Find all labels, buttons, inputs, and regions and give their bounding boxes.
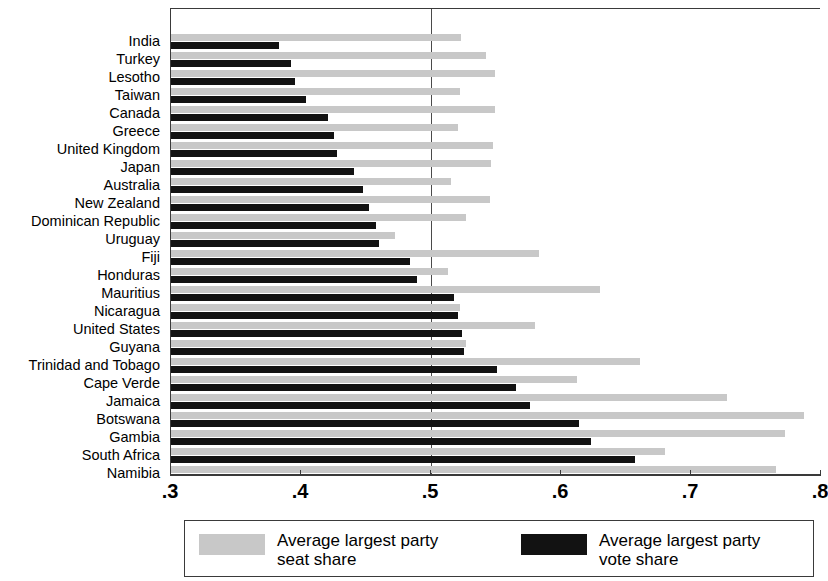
bar-group <box>171 177 820 195</box>
legend-swatch-seat <box>199 534 265 555</box>
bar-vote-share <box>171 258 410 265</box>
y-axis-tick-label: United States <box>73 320 160 338</box>
bar-vote-share <box>171 312 458 319</box>
bar-seat-share <box>171 340 466 347</box>
bar-vote-share <box>171 456 635 463</box>
bar-group <box>171 447 820 465</box>
bar-group <box>171 141 820 159</box>
x-axis-tick <box>820 470 821 476</box>
bar-group <box>171 303 820 321</box>
bar-seat-share <box>171 250 539 257</box>
x-axis-tick-label: .3 <box>162 480 179 503</box>
y-axis-tick-label: Turkey <box>116 50 160 68</box>
x-axis-tick <box>430 470 431 476</box>
bar-vote-share <box>171 384 516 391</box>
bar-group <box>171 159 820 177</box>
bar-seat-share <box>171 196 490 203</box>
y-axis-tick-label: New Zealand <box>75 194 160 212</box>
y-axis-tick-label: South Africa <box>82 446 160 464</box>
x-axis-tick <box>300 470 301 476</box>
bar-group <box>171 321 820 339</box>
bar-group <box>171 51 820 69</box>
bar-group <box>171 123 820 141</box>
y-axis-labels: IndiaTurkeyLesothoTaiwanCanadaGreeceUnit… <box>0 8 166 475</box>
bar-seat-share <box>171 214 466 221</box>
bar-seat-share <box>171 160 491 167</box>
bar-seat-share <box>171 178 451 185</box>
bar-vote-share <box>171 150 337 157</box>
bar-seat-share <box>171 268 448 275</box>
y-axis-tick-label: Guyana <box>109 338 160 356</box>
x-axis-tick <box>690 470 691 476</box>
bar-vote-share <box>171 114 328 121</box>
bar-group <box>171 465 820 475</box>
y-axis-tick-label: Dominican Republic <box>31 212 160 230</box>
bar-group <box>171 195 820 213</box>
y-axis-tick-label: Honduras <box>97 266 160 284</box>
bar-seat-share <box>171 322 535 329</box>
bar-group <box>171 429 820 447</box>
x-axis-tick <box>560 470 561 476</box>
bar-vote-share <box>171 240 379 247</box>
x-axis-tick-label: .4 <box>292 480 309 503</box>
bar-seat-share <box>171 376 577 383</box>
bar-seat-share <box>171 106 495 113</box>
bar-vote-share <box>171 186 363 193</box>
bar-seat-share <box>171 448 665 455</box>
bar-group <box>171 285 820 303</box>
x-axis-tick-label: .6 <box>552 480 569 503</box>
bar-seat-share <box>171 430 785 437</box>
bar-group <box>171 393 820 411</box>
bar-vote-share <box>171 132 334 139</box>
bar-group <box>171 249 820 267</box>
x-axis-tick <box>170 470 171 476</box>
bar-seat-share <box>171 52 486 59</box>
bar-vote-share <box>171 438 591 445</box>
legend-entry: Average largest party vote share <box>521 531 760 569</box>
bar-group <box>171 69 820 87</box>
y-axis-tick-label: Uruguay <box>105 230 160 248</box>
bar-vote-share <box>171 366 497 373</box>
y-axis-tick-label: Canada <box>109 104 160 122</box>
bar-seat-share <box>171 88 460 95</box>
bar-seat-share <box>171 232 395 239</box>
chart-figure: IndiaTurkeyLesothoTaiwanCanadaGreeceUnit… <box>0 0 828 581</box>
bar-vote-share <box>171 402 530 409</box>
bar-group <box>171 339 820 357</box>
bar-group <box>171 33 820 51</box>
bar-vote-share <box>171 222 376 229</box>
y-axis-tick-label: United Kingdom <box>57 140 160 158</box>
bar-seat-share <box>171 394 727 401</box>
x-axis-line <box>170 475 820 476</box>
plot-area <box>170 8 820 475</box>
bar-seat-share <box>171 358 640 365</box>
bar-group <box>171 231 820 249</box>
y-axis-tick-label: Japan <box>120 158 160 176</box>
bar-vote-share <box>171 96 306 103</box>
bar-seat-share <box>171 124 458 131</box>
bar-vote-share <box>171 78 295 85</box>
y-axis-tick-label: Greece <box>112 122 160 140</box>
bar-vote-share <box>171 168 354 175</box>
bar-vote-share <box>171 420 579 427</box>
x-axis: .3.4.5.6.7.8 <box>170 475 820 515</box>
bar-vote-share <box>171 204 369 211</box>
y-axis-tick-label: Taiwan <box>115 86 160 104</box>
x-axis-tick-label: .8 <box>812 480 828 503</box>
x-axis-tick-label: .7 <box>682 480 699 503</box>
y-axis-tick-label: Lesotho <box>108 68 160 86</box>
legend-label: Average largest party vote share <box>599 531 760 569</box>
bar-group <box>171 213 820 231</box>
y-axis-tick-label: Nicaragua <box>94 302 160 320</box>
y-axis-tick-label: Mauritius <box>101 284 160 302</box>
y-axis-tick-label: India <box>129 32 160 50</box>
bar-vote-share <box>171 348 464 355</box>
y-axis-tick-label: Fiji <box>141 248 160 266</box>
bar-vote-share <box>171 276 417 283</box>
bar-group <box>171 357 820 375</box>
y-axis-tick-label: Jamaica <box>106 392 160 410</box>
bar-vote-share <box>171 60 291 67</box>
bar-vote-share <box>171 42 279 49</box>
bar-seat-share <box>171 142 493 149</box>
legend-swatch-vote <box>521 534 587 555</box>
